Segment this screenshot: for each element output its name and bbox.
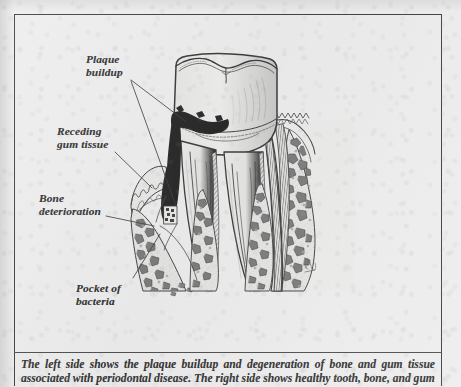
label-bone-deterioration: Bone deterioration <box>39 192 101 217</box>
label-receding-gum-tissue: Receding gum tissue <box>57 125 108 150</box>
label-plaque-buildup: Plaque buildup <box>86 53 123 78</box>
figure-page: Plaque buildup Receding gum tissue Bone … <box>0 0 461 387</box>
figure-caption: The left side shows the plaque buildup a… <box>21 358 435 386</box>
label-pocket-of-bacteria: Pocket of bacteria <box>76 282 121 307</box>
caption-divider <box>14 352 442 353</box>
